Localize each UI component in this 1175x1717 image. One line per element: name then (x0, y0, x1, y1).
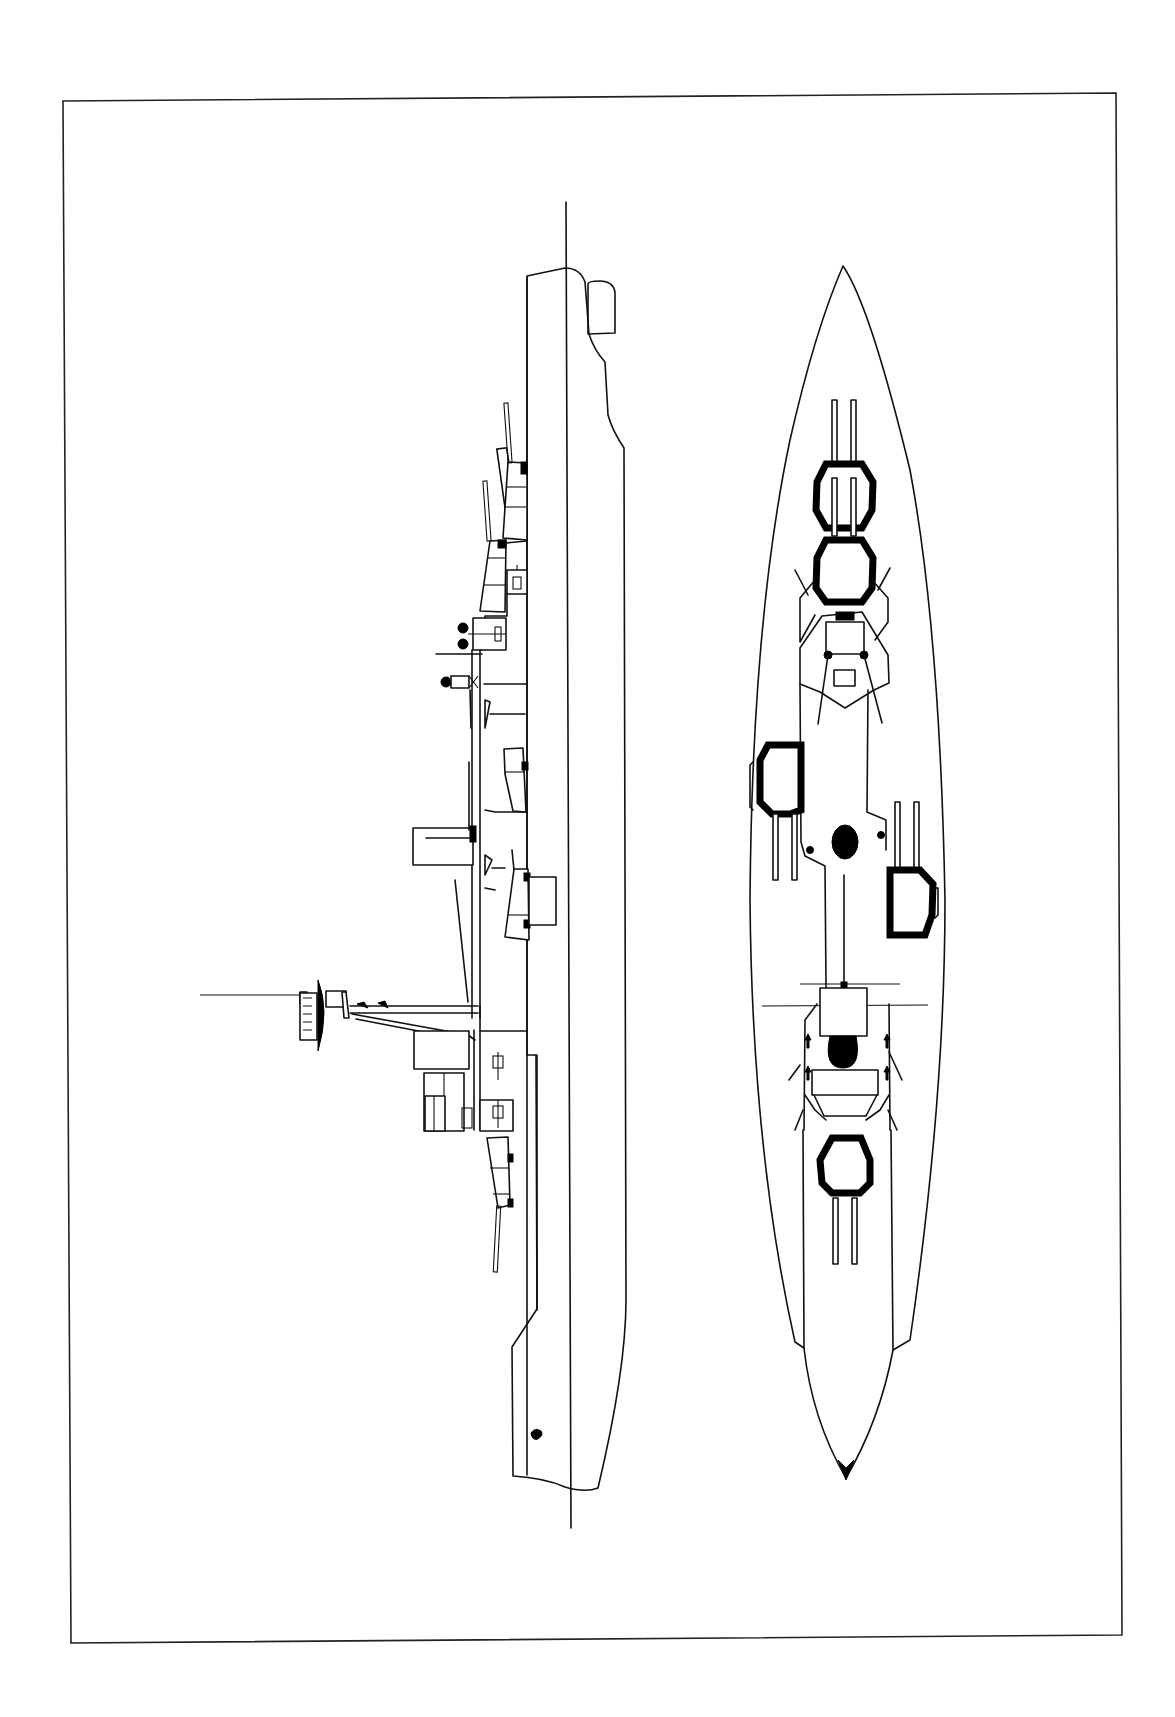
plan-turret-b (816, 540, 873, 602)
side-aft-superstructure (414, 1031, 527, 1131)
side-turret-midship-lower (505, 850, 556, 940)
plan-vent-port (807, 847, 814, 854)
plan-turret-aft (820, 1138, 870, 1264)
bow-bulb (588, 281, 615, 334)
border-frame (63, 93, 1122, 1643)
plan-turret-starboard (890, 802, 938, 935)
stern-anchor-icon (531, 1429, 542, 1439)
waterline (566, 202, 571, 1528)
plan-stern-tip (838, 1460, 854, 1480)
plan-turret-a (816, 400, 873, 536)
ship-drawing (0, 0, 1175, 1717)
side-funnel (413, 762, 476, 865)
plan-deck-edge (803, 1130, 893, 1350)
side-funnel-base (485, 855, 505, 890)
plan-bridge (795, 568, 890, 724)
drawing-sheet (0, 0, 1175, 1717)
mast-stay (455, 880, 468, 1002)
plan-turret-port (750, 745, 801, 880)
side-turret-a (497, 403, 527, 540)
side-turret-aft (487, 1137, 513, 1272)
plan-mainmast (762, 984, 928, 1130)
plan-vent-starboard (878, 832, 885, 839)
plan-funnel-cap (832, 825, 858, 859)
plan-view (750, 266, 945, 1480)
side-turret-midship-upper (504, 748, 528, 812)
side-profile-view (200, 202, 626, 1528)
